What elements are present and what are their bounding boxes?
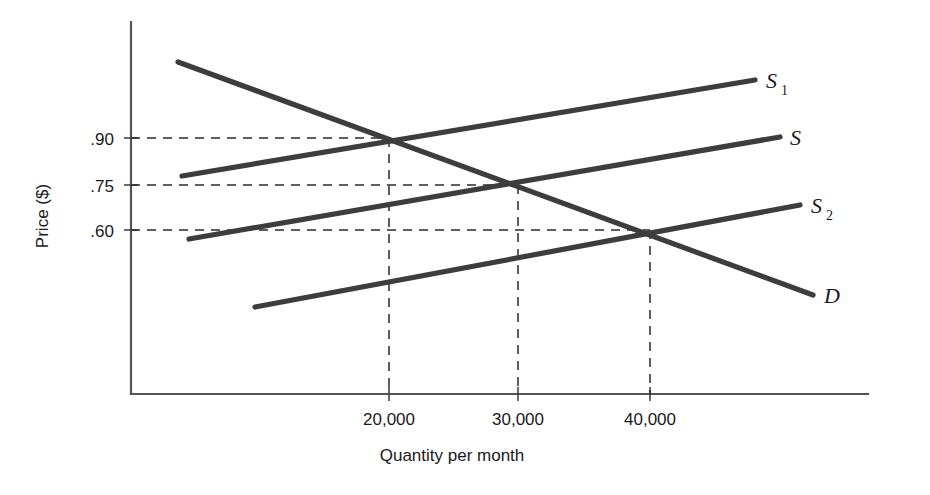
x-tick-label-20000: 20,000	[363, 410, 415, 429]
curve-label-s2: S 2	[811, 193, 833, 223]
curve-label-d: D	[823, 283, 840, 308]
x-tick-label-30000: 30,000	[492, 410, 544, 429]
y-axis-title: Price ($)	[33, 184, 52, 248]
axes-group	[131, 22, 868, 394]
chart-canvas: .90 .75 .60 20,000 30,000 40,000 Quantit…	[0, 0, 930, 495]
x-axis-title: Quantity per month	[380, 446, 525, 465]
curve-label-s1-text: S	[766, 68, 777, 93]
y-tick-label-60: .60	[90, 222, 114, 241]
curve-label-d-text: D	[823, 283, 840, 308]
y-tick-labels: .90 .75 .60	[90, 130, 114, 241]
curve-label-s: S	[790, 125, 801, 150]
curves-group	[178, 62, 813, 307]
curve-label-s2-subscript: 2	[826, 208, 833, 223]
y-tick-label-75: .75	[90, 177, 114, 196]
x-tick-labels: 20,000 30,000 40,000	[363, 410, 676, 429]
curve-label-s-text: S	[790, 125, 801, 150]
supply-demand-chart: .90 .75 .60 20,000 30,000 40,000 Quantit…	[0, 0, 930, 495]
curve-label-s1: S 1	[766, 68, 788, 98]
curve-supply-s2	[255, 205, 800, 307]
y-tick-label-90: .90	[90, 130, 114, 149]
equilibrium-guides	[131, 138, 650, 394]
curve-label-s1-subscript: 1	[781, 83, 788, 98]
x-tick-label-40000: 40,000	[624, 410, 676, 429]
curve-label-s2-text: S	[811, 193, 822, 218]
